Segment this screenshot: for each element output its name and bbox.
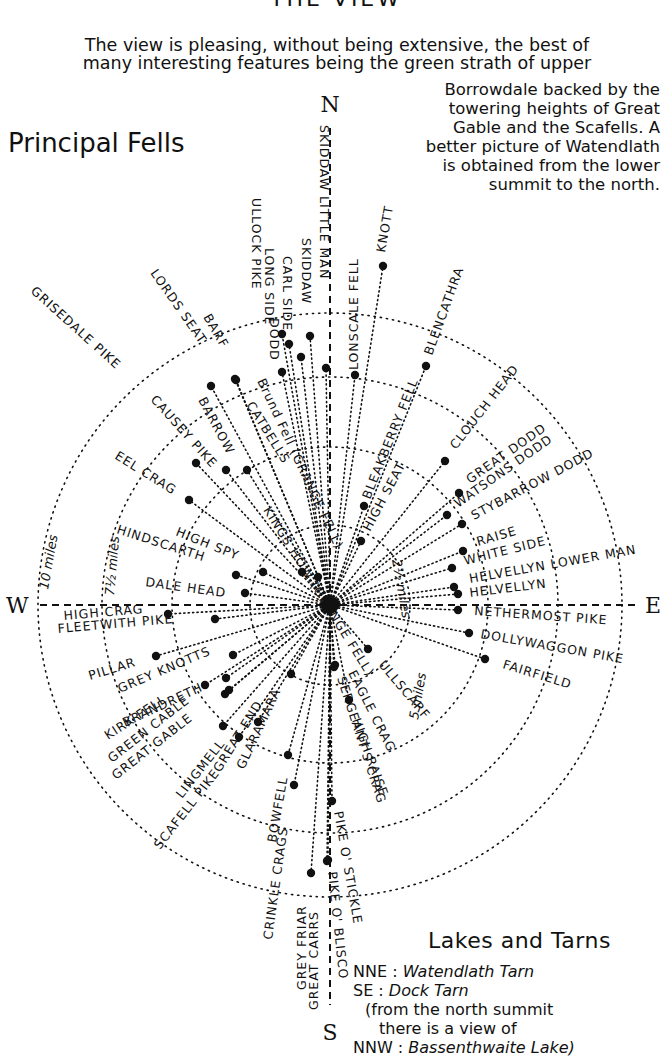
- fell-dot: [287, 670, 295, 678]
- fell-dot: [328, 797, 336, 805]
- fell-dot: [351, 371, 359, 379]
- ring-label-10-miles: 10 miles: [36, 533, 60, 590]
- compass-east: E: [645, 593, 661, 618]
- fell-dot: [422, 362, 430, 370]
- ring-label-7-5-miles: 7½ miles: [102, 535, 122, 596]
- fell-dot: [465, 629, 473, 637]
- fell-dot: [192, 459, 200, 467]
- lake-name: Dock Tarn: [389, 981, 469, 1000]
- fell-dot: [357, 537, 365, 545]
- fell-dot: [307, 869, 315, 877]
- fell-dot: [225, 686, 233, 694]
- fell-label: GREY FRIAR: [294, 905, 309, 990]
- lake-direction: SE :: [353, 981, 384, 1000]
- sight-line: [288, 605, 330, 755]
- fell-dot: [222, 466, 230, 474]
- sight-line: [233, 605, 330, 655]
- fell-label: SKIDDAW: [299, 238, 314, 304]
- fell-label: EEL CRAG: [112, 448, 179, 498]
- fell-label: DODD: [267, 318, 282, 361]
- fell-dot: [185, 496, 193, 504]
- sight-line: [215, 605, 330, 619]
- fell-label: SKIDDAW LITTLE MAN: [317, 125, 332, 279]
- fell-dot: [232, 376, 240, 384]
- sight-line: [223, 605, 330, 726]
- lake-item: SE : Dock Tarn: [353, 981, 672, 1000]
- fell-label: DALE HEAD: [145, 574, 228, 600]
- fell-dot: [322, 364, 330, 372]
- fell-dot: [241, 589, 249, 597]
- compass-south: S: [322, 1020, 337, 1045]
- fell-dot: [243, 466, 251, 474]
- lake-item: NNE : Watendlath Tarn: [353, 962, 672, 981]
- fell-dot: [211, 615, 219, 623]
- fell-dot: [448, 564, 456, 572]
- fell-dot: [219, 722, 227, 730]
- lake-direction: NNW :: [353, 1038, 403, 1057]
- fell-dot: [379, 262, 387, 270]
- fell-dot: [229, 651, 237, 659]
- fell-dot: [323, 857, 331, 865]
- fell-dot: [454, 590, 462, 598]
- fell-dot: [458, 520, 466, 528]
- fell-dot: [330, 663, 338, 671]
- fell-label: FAIRFIELD: [501, 657, 574, 692]
- lakes-heading: Lakes and Tarns: [428, 928, 611, 953]
- fell-label: LORDS SEAT: [148, 266, 211, 346]
- fell-dot: [222, 674, 230, 682]
- fell-dot: [443, 511, 451, 519]
- compass-north: N: [320, 92, 339, 117]
- fell-dot: [360, 502, 368, 510]
- lake-note: there is a view of: [353, 1019, 672, 1038]
- fell-dot: [441, 457, 449, 465]
- fell-label: KNOTT: [373, 204, 396, 253]
- lake-name: Bassenthwaite Lake): [408, 1038, 574, 1057]
- fell-dot: [152, 652, 160, 660]
- view-diagram: N E S W 10 miles 7½ miles 2½ miles 5 mil…: [0, 0, 672, 1064]
- fell-label: DOLLYWAGGON PIKE: [479, 626, 625, 666]
- fell-dot: [481, 655, 489, 663]
- fell-dot: [285, 340, 293, 348]
- fell-label: GRISEDALE PIKE: [28, 283, 124, 372]
- ring-label-2-5-miles: 2½ miles: [389, 558, 414, 620]
- fell-label: NETHERMOST PIKE: [474, 603, 608, 627]
- fell-dot: [290, 781, 298, 789]
- lake-note: (from the north summit: [353, 1000, 672, 1019]
- fell-label: ULLOCK PIKE: [249, 198, 264, 290]
- fell-dot: [284, 751, 292, 759]
- sight-line: [168, 605, 330, 614]
- lakes-list: NNE : Watendlath Tarn SE : Dock Tarn (fr…: [353, 962, 672, 1057]
- lake-direction: NNE :: [353, 962, 398, 981]
- fell-dot: [306, 332, 314, 340]
- fell-dot: [454, 606, 462, 614]
- lake-item: NNW : Bassenthwaite Lake): [353, 1038, 672, 1057]
- fell-dot: [232, 571, 240, 579]
- fell-label: BLENCATHRA: [421, 265, 467, 357]
- compass-west: W: [6, 593, 29, 618]
- fell-label: CLOUCH HEAD: [447, 362, 522, 452]
- fell-label: LONSCALE FELL: [346, 258, 361, 370]
- fell-dot: [278, 368, 286, 376]
- sight-line: [156, 605, 330, 656]
- fell-dot: [259, 568, 267, 576]
- fell-dot: [297, 353, 305, 361]
- lake-name: Watendlath Tarn: [403, 962, 535, 981]
- fell-dot: [207, 382, 215, 390]
- sight-line: [330, 594, 458, 605]
